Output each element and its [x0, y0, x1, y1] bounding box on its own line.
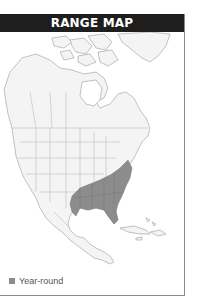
range-map-panel: RANGE MAP	[0, 14, 185, 296]
range-map-title: RANGE MAP	[51, 16, 134, 30]
legend-label-year-round: Year-round	[19, 276, 63, 286]
range-map-header: RANGE MAP	[0, 14, 184, 32]
north-america-landmass	[4, 54, 150, 264]
north-america-map	[0, 32, 184, 272]
map-legend: Year-round	[9, 276, 63, 286]
year-round-swatch	[9, 278, 15, 284]
greenland-shape	[118, 32, 170, 62]
